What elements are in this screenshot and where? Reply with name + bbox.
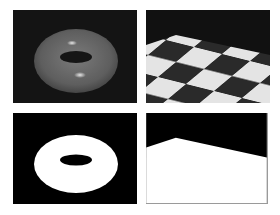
torus-shaded-image [13,10,137,103]
floor-mask-render [146,113,268,204]
floor-mask-image [146,113,267,203]
torus-mask-image [13,113,137,204]
shaded-torus-render [13,10,137,103]
checkerboard-image [146,10,270,103]
checkerboard-floor-render [146,10,270,103]
torus-mask-render [13,113,137,204]
